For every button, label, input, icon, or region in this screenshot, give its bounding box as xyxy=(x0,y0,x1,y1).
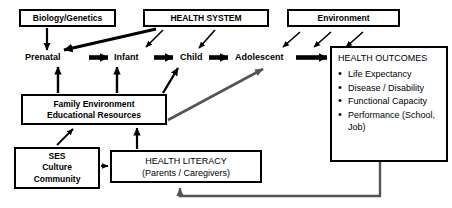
list-item: •Life Expectancy xyxy=(338,68,442,81)
bullet-icon: • xyxy=(338,81,342,94)
arrow-health-system-to-infant xyxy=(146,30,163,47)
arrow-environment-to-adolescent-b xyxy=(314,32,331,47)
bullet-icon: • xyxy=(338,94,342,107)
node-health-outcomes-title: HEALTH OUTCOMES xyxy=(338,53,427,63)
node-environment[interactable]: Environment xyxy=(287,9,400,27)
health-outcomes-list: •Life Expectancy •Disease / Disability •… xyxy=(338,68,442,135)
stage-label-child[interactable]: Child xyxy=(179,52,204,62)
node-health-literacy[interactable]: HEALTH LITERACY (Parents / Caregivers) xyxy=(110,150,262,183)
node-health-literacy-line1: HEALTH LITERACY xyxy=(145,155,226,167)
outcome-text: Performance (School, Job) xyxy=(348,110,435,133)
stage-label-prenatal[interactable]: Prenatal xyxy=(24,52,62,62)
node-environment-label: Environment xyxy=(318,13,370,23)
outcome-text: Life Expectancy xyxy=(348,69,412,79)
arrow-environment-to-outcomes xyxy=(346,32,363,47)
diagram-canvas: Biology/Genetics HEALTH SYSTEM Environme… xyxy=(0,0,452,208)
list-item: •Functional Capacity xyxy=(338,95,442,108)
arrow-family-to-child xyxy=(163,68,178,93)
node-health-literacy-line2: (Parents / Caregivers) xyxy=(142,167,230,179)
node-health-system-label: HEALTH SYSTEM xyxy=(170,13,241,23)
arrow-ses-to-family-environment xyxy=(57,129,73,145)
node-health-system[interactable]: HEALTH SYSTEM xyxy=(143,9,269,27)
outcome-text: Functional Capacity xyxy=(348,96,427,106)
node-health-outcomes[interactable]: HEALTH OUTCOMES •Life Expectancy •Diseas… xyxy=(330,46,448,162)
node-ses-line1: SES xyxy=(48,151,65,163)
stage-label-infant[interactable]: Infant xyxy=(113,52,140,62)
node-biology-genetics-label: Biology/Genetics xyxy=(33,13,102,23)
arrow-family-to-adolescent xyxy=(168,69,263,120)
arrow-environment-to-adolescent-a xyxy=(283,32,300,47)
node-family-environment-line2: Educational Resources xyxy=(47,110,141,121)
node-ses-line3: Community xyxy=(34,174,81,186)
node-ses[interactable]: SES Culture Community xyxy=(14,147,100,189)
outcome-text: Disease / Disability xyxy=(348,83,424,93)
bullet-icon: • xyxy=(338,67,342,80)
node-ses-line2: Culture xyxy=(42,162,72,174)
list-item: • Performance (School, Job) xyxy=(338,109,442,134)
list-item: •Disease / Disability xyxy=(338,82,442,95)
node-family-environment-line1: Family Environment xyxy=(53,99,134,110)
bullet-icon: • xyxy=(338,108,342,121)
arrow-health-system-to-child xyxy=(199,30,215,48)
node-biology-genetics[interactable]: Biology/Genetics xyxy=(19,9,116,27)
arrow-health-system-to-prenatal xyxy=(64,29,156,50)
node-family-environment[interactable]: Family Environment Educational Resources xyxy=(21,94,167,125)
stage-label-adolescent[interactable]: Adolescent xyxy=(234,52,285,62)
